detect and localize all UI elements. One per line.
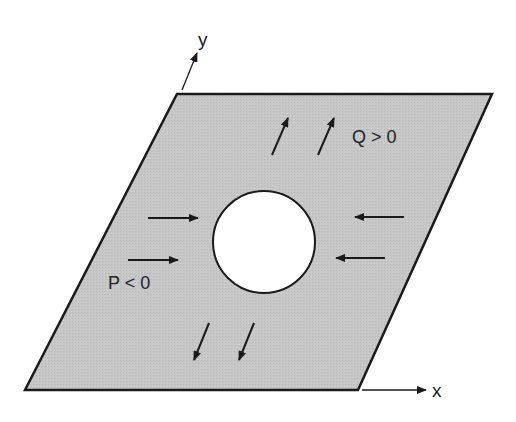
y-axis-arrow [182,53,197,90]
plate-diagram: y x Q > 0 P < 0 [0,0,516,422]
y-axis-label: y [198,29,208,50]
x-axis-label: x [432,380,442,401]
circular-hole [213,191,315,293]
p-load-label: P < 0 [108,273,150,293]
q-load-label: Q > 0 [352,127,397,147]
